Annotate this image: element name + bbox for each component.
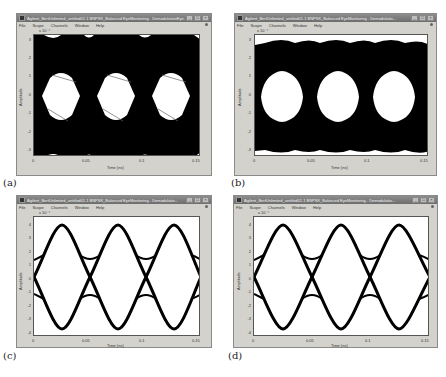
y-axis-label: Amplitude	[236, 272, 241, 290]
menu-help[interactable]: Help	[314, 23, 322, 28]
dock-icon[interactable]	[430, 23, 433, 26]
scope-window-d: Agilent_BertUnlimited_untitled01.1 BNPSK…	[233, 195, 438, 348]
menu-window[interactable]: Window	[75, 23, 89, 28]
y-tick: -2	[23, 303, 31, 308]
eye-diagram-plot[interactable]	[253, 216, 429, 336]
maximize-button[interactable]: □	[420, 197, 427, 203]
y-axis-label: Amplitude	[18, 88, 23, 106]
maximize-button[interactable]: □	[194, 15, 201, 21]
x-tick: 0	[32, 158, 34, 163]
y-tick: 0	[243, 276, 251, 281]
x-tick: 0.05	[307, 158, 315, 163]
dock-icon[interactable]	[205, 205, 208, 208]
close-button[interactable]: ×	[428, 197, 435, 203]
menu-channels[interactable]: Channels	[269, 23, 286, 28]
y-tick: -1	[243, 289, 251, 294]
y-axis-label: Amplitude	[237, 88, 242, 106]
menu-window[interactable]: Window	[75, 205, 89, 210]
figure-caption: (d)	[228, 350, 242, 361]
app-icon	[237, 15, 243, 21]
eye-diagram-plot[interactable]	[33, 34, 200, 156]
x-tick: 0.1	[139, 158, 145, 163]
x-axis-label: Time (ns)	[107, 165, 124, 170]
eye-diagram-plot[interactable]	[33, 216, 200, 336]
close-button[interactable]: ×	[202, 197, 209, 203]
x-tick: 0.1	[364, 158, 370, 163]
eye-diagram-plot[interactable]	[254, 34, 428, 156]
x-tick: 0.1	[365, 338, 371, 343]
y-tick: -3	[243, 147, 251, 152]
title-bar[interactable]: Agilent_BertUnlimited_untitled01.1 BNPSK…	[234, 196, 437, 204]
menu-channels[interactable]: Channels	[51, 205, 68, 210]
x-tick: 0	[252, 338, 254, 343]
y-tick: 1	[23, 262, 31, 267]
x-tick: 0.15	[421, 338, 429, 343]
close-button[interactable]: ×	[202, 15, 209, 21]
y-tick: 2	[23, 55, 31, 60]
menu-channels[interactable]: Channels	[268, 205, 285, 210]
x-tick: 0.1	[139, 338, 145, 343]
menu-file[interactable]: File	[19, 205, 25, 210]
minimize-button[interactable]: _	[186, 15, 193, 21]
y-tick: -2	[23, 129, 31, 134]
menu-file[interactable]: File	[19, 23, 25, 28]
menu-scope[interactable]: Scope	[250, 23, 261, 28]
scope-window-b: Agilent_BertUnlimited_untitled01.1 BNPSK…	[234, 13, 437, 176]
menu-channels[interactable]: Channels	[51, 23, 68, 28]
x-tick: 0.05	[306, 338, 314, 343]
menu-scope[interactable]: Scope	[32, 23, 43, 28]
close-button[interactable]: ×	[427, 15, 434, 21]
window-title: Agilent_BertUnlimited_untitled01.1 BNPSK…	[244, 198, 411, 203]
menu-file[interactable]: File	[237, 23, 243, 28]
y-tick: -3	[23, 147, 31, 152]
app-icon	[236, 197, 242, 203]
menu-window[interactable]: Window	[293, 23, 307, 28]
x-tick: 0	[253, 158, 255, 163]
dock-icon[interactable]	[205, 23, 208, 26]
scope-window-a: Agilent_BertUnlimited_untitled01.1 BNPSK…	[16, 13, 212, 176]
window-title: Agilent_BertUnlimited_untitled01.1 BNPSK…	[245, 16, 410, 21]
menu-help[interactable]: Help	[96, 23, 104, 28]
title-bar[interactable]: Agilent_BertUnlimited_untitled01.1 BNPSK…	[17, 196, 211, 204]
y-tick: 0	[243, 92, 251, 97]
scope-window-c: Agilent_BertUnlimited_untitled01.1 BNPSK…	[16, 195, 212, 348]
menu-help[interactable]: Help	[96, 205, 104, 210]
minimize-button[interactable]: _	[186, 197, 193, 203]
y-tick: 3	[243, 37, 251, 42]
dock-icon[interactable]	[431, 205, 434, 208]
y-tick: 1	[23, 73, 31, 78]
x-tick: 0.15	[420, 158, 428, 163]
y-tick: -2	[243, 303, 251, 308]
y-tick: -3	[243, 316, 251, 321]
maximize-button[interactable]: □	[194, 197, 201, 203]
y-tick: 1	[243, 73, 251, 78]
y-tick: 1	[243, 262, 251, 267]
window-title: Agilent_BertUnlimited_untitled01.1 BNPSK…	[27, 16, 185, 21]
figure-caption: (a)	[3, 177, 17, 188]
menu-window[interactable]: Window	[292, 205, 306, 210]
minimize-button[interactable]: _	[411, 15, 418, 21]
y-tick: 4	[243, 222, 251, 227]
title-bar[interactable]: Agilent_BertUnlimited_untitled01.1 BNPSK…	[235, 14, 436, 22]
title-bar[interactable]: Agilent_BertUnlimited_untitled01.1 BNPSK…	[17, 14, 211, 22]
y-tick: 0	[23, 92, 31, 97]
menu-help[interactable]: Help	[313, 205, 321, 210]
y-tick: 3	[23, 37, 31, 42]
maximize-button[interactable]: □	[419, 15, 426, 21]
x-tick: 0.15	[192, 158, 200, 163]
menu-scope[interactable]: Scope	[249, 205, 260, 210]
x-tick: 0.05	[82, 338, 90, 343]
y-tick: 0	[23, 276, 31, 281]
y-tick: -1	[23, 289, 31, 294]
y-tick: 4	[23, 222, 31, 227]
app-icon	[19, 197, 25, 203]
minimize-button[interactable]: _	[412, 197, 419, 203]
figure-caption: (c)	[3, 350, 16, 361]
menu-file[interactable]: File	[236, 205, 242, 210]
x-tick: 0.15	[192, 338, 200, 343]
y-tick: 3	[23, 235, 31, 240]
menu-scope[interactable]: Scope	[32, 205, 43, 210]
y-axis-label: Amplitude	[18, 272, 23, 290]
y-tick: 2	[243, 55, 251, 60]
y-tick: 2	[243, 249, 251, 254]
